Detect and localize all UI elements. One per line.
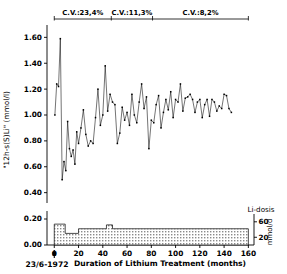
series-point [148,148,150,150]
series-point [177,101,179,103]
series-point [214,101,216,103]
cv-band-label-2: C.V.:8,2% [182,9,218,17]
series-point [226,95,228,97]
series-point [138,101,140,103]
x-tick-label-8: 160 [241,249,256,258]
series-point [189,94,191,96]
series-point [76,131,78,133]
start-date-label: 23/6-1972 [26,260,69,269]
series-point [107,110,109,112]
series-point [74,163,76,165]
series-point [228,108,230,110]
series-point [104,65,106,67]
x-tick-label-5: 100 [168,249,183,258]
series-point [153,122,155,124]
y-tick-label-5: 1.40 [24,59,42,68]
series-point [146,96,148,98]
series-point [206,99,208,101]
y-axis-title: "12h-s(S)Li" (mmol/l) [2,91,11,169]
series-point [160,127,162,129]
x-tick-label-4: 80 [146,249,156,258]
series-point [129,125,131,127]
series-point [126,112,128,114]
y-tick-label-0: 0.40 [24,188,42,197]
date-marker-dot [52,252,56,256]
series-point [216,110,218,112]
series-point [202,117,204,119]
y-low-tick-label-1: 0.00 [24,240,42,249]
series-point [97,88,99,90]
series-point [141,83,143,85]
series-point [151,119,153,121]
series-point [172,117,174,119]
x-tick-label-7: 140 [216,249,231,258]
series-point [185,97,187,99]
series-point [92,143,94,145]
series-point [211,99,213,101]
series-point [168,109,170,111]
series-point [112,101,114,103]
series-point [95,117,97,119]
series-point [187,96,189,98]
series-point [209,116,211,118]
series-point [87,145,89,147]
series-point [124,119,126,121]
y-low-tick-label-0: 0.20 [24,214,42,223]
series-point [175,99,177,101]
x-tick-label-6: 120 [192,249,207,258]
series-point [72,149,74,151]
series-point [80,127,82,129]
series-point [223,94,225,96]
cv-band-label-1: C.V.:11,3% [111,9,152,17]
series-point [131,94,133,96]
series-point [67,121,69,123]
series-point [65,170,67,172]
series-point [119,132,121,134]
series-point [114,104,116,106]
series-point [58,86,60,88]
series-point [85,134,87,136]
y-tick-label-2: 0.80 [24,136,42,145]
series-point [71,156,73,158]
series-point [231,112,233,114]
series-point [170,91,172,93]
series-point [155,104,157,106]
series-point [60,38,62,40]
y-tick-label-1: 0.60 [24,162,42,171]
series-point [63,161,65,163]
dose-unit-label: mmol/d [266,219,274,246]
dose-legend-label: Li-dosis [247,205,274,214]
series-point [69,148,71,150]
series-point [199,99,201,101]
series-point [218,105,220,107]
series-point [134,114,136,116]
y-tick-label-6: 1.60 [24,33,42,42]
series-point [221,108,223,110]
series-point [192,99,194,101]
x-tick-label-3: 60 [122,249,132,258]
series-point [204,104,206,106]
series-point [121,106,123,108]
series-point [56,83,58,85]
series-point [194,112,196,114]
x-axis-title: Duration of Lithium Treatment (months) [74,259,246,268]
series-point [158,95,160,97]
cv-band-label-0: C.V.:23,4% [62,9,103,17]
series-point [143,108,145,110]
series-point [136,122,138,124]
series-point [102,114,104,116]
series-point [90,140,92,142]
series-point [61,179,63,181]
series-point [78,143,80,145]
series-point [100,125,102,127]
series-point [54,114,56,116]
lithium-serum-level-figure: C.V.:23,4%C.V.:11,3%C.V.:8,2% 0.400.600.… [0,0,287,274]
series-point [182,110,184,112]
y-tick-label-3: 1.00 [24,110,42,119]
y-tick-label-4: 1.20 [24,85,42,94]
series-point [83,109,85,111]
series-point [165,99,167,101]
series-point [180,83,182,85]
series-point [197,101,199,103]
x-tick-label-1: 20 [73,249,83,258]
